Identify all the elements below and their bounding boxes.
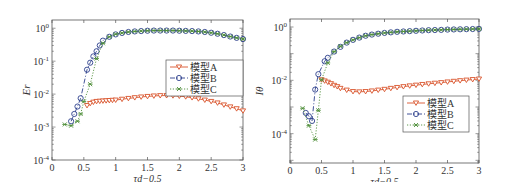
y-tick-label: 10-2 [33, 88, 49, 100]
x-tick-label: 2 [414, 165, 419, 176]
triangle-marker [209, 99, 214, 103]
asterisk-marker [414, 29, 419, 33]
legend-label: 模型B [190, 72, 217, 84]
asterisk-marker [325, 61, 330, 65]
legend: 模型A模型B模型C [166, 60, 243, 96]
asterisk-marker [407, 29, 412, 33]
x-tick-label: 1.5 [378, 165, 391, 176]
triangle-marker [382, 87, 387, 91]
y-tick-label: 10-3 [33, 121, 49, 133]
asterisk-marker [363, 34, 368, 38]
triangle-marker [376, 88, 381, 92]
asterisk-marker [75, 119, 80, 123]
asterisk-marker [126, 30, 131, 34]
triangle-marker [413, 83, 418, 87]
asterisk-marker [395, 30, 400, 34]
triangle-marker [407, 84, 412, 88]
triangle-marker [113, 98, 118, 102]
asterisk-marker [222, 33, 227, 37]
asterisk-marker [215, 32, 220, 36]
triangle-marker [420, 82, 425, 86]
asterisk-marker [196, 29, 201, 33]
y-tick-label: 100 [36, 22, 50, 34]
triangle-marker [338, 86, 343, 90]
triangle-marker [445, 80, 450, 84]
asterisk-marker [313, 138, 318, 142]
asterisk-marker [120, 31, 125, 35]
asterisk-marker [439, 28, 444, 32]
triangle-marker [240, 109, 245, 113]
x-tick-label: 1 [351, 165, 356, 176]
triangle-marker [151, 94, 156, 98]
asterisk-marker [300, 106, 305, 110]
asterisk-marker [164, 29, 169, 33]
asterisk-marker [451, 27, 456, 31]
x-tick-label: 1.5 [141, 162, 154, 173]
asterisk-marker [177, 29, 182, 33]
triangle-marker [119, 97, 124, 101]
triangle-marker [470, 78, 475, 82]
asterisk-marker [420, 28, 425, 32]
triangle-marker [139, 95, 144, 99]
triangle-marker [215, 101, 220, 105]
er-chart: 00.511.522.53τd−0.510010-110-210-310-4Er… [0, 0, 253, 182]
y-axis-label: Iθ [253, 86, 265, 97]
legend-label: 模型A [427, 97, 455, 109]
triangle-marker [369, 89, 374, 93]
x-tick-label: 0 [50, 162, 55, 173]
triangle-marker [401, 85, 406, 89]
itheta-chart: 00.511.522.53τd−0.510010-210-4Iθ模型A模型B模型… [253, 0, 506, 182]
y-axis: 10010-210-4 [271, 21, 479, 163]
triangle-marker [132, 96, 137, 100]
asterisk-marker [209, 31, 214, 35]
asterisk-marker [382, 31, 387, 35]
asterisk-marker [464, 27, 469, 31]
triangle-marker [221, 103, 226, 107]
y-tick-label: 10-1 [33, 55, 49, 67]
asterisk-marker [344, 41, 349, 45]
asterisk-marker [113, 32, 118, 36]
triangle-marker [451, 79, 456, 83]
asterisk-marker [107, 35, 112, 39]
asterisk-marker [88, 82, 93, 86]
asterisk-marker [139, 29, 144, 33]
x-tick-label: 3 [477, 165, 482, 176]
legend-label: 模型C [190, 83, 217, 95]
x-tick-label: 0.5 [78, 162, 91, 173]
asterisk-marker [183, 29, 188, 33]
asterisk-marker [158, 29, 163, 33]
triangle-marker [426, 82, 431, 86]
y-axis-label: Er [20, 84, 32, 97]
asterisk-marker [151, 29, 156, 33]
triangle-marker [357, 90, 362, 94]
legend-label: 模型A [190, 61, 218, 73]
circle-marker [75, 104, 80, 109]
asterisk-marker [307, 124, 312, 128]
x-tick-label: 3 [241, 162, 246, 173]
triangle-marker [126, 96, 131, 100]
asterisk-marker [426, 28, 431, 32]
legend-label: 模型B [427, 108, 454, 120]
asterisk-marker [234, 36, 239, 40]
asterisk-marker [401, 29, 406, 33]
y-tick-label: 10-2 [271, 74, 287, 86]
x-tick-label: 0 [288, 165, 293, 176]
series-model-a [319, 77, 482, 94]
triangle-marker [476, 77, 481, 81]
asterisk-marker [370, 33, 375, 37]
x-tick-label: 2 [177, 162, 182, 173]
triangle-marker [350, 90, 355, 94]
x-tick-label: 2.5 [205, 162, 218, 173]
asterisk-marker [62, 122, 67, 126]
asterisk-marker [190, 29, 195, 33]
y-tick-label: 100 [274, 21, 288, 33]
triangle-marker [344, 88, 349, 92]
triangle-marker [458, 79, 463, 83]
asterisk-marker [445, 28, 450, 32]
asterisk-marker [228, 35, 233, 39]
triangle-marker [145, 94, 150, 98]
triangle-marker [234, 107, 239, 111]
triangle-marker [158, 94, 163, 98]
triangle-marker [228, 105, 233, 109]
triangle-marker [432, 81, 437, 85]
